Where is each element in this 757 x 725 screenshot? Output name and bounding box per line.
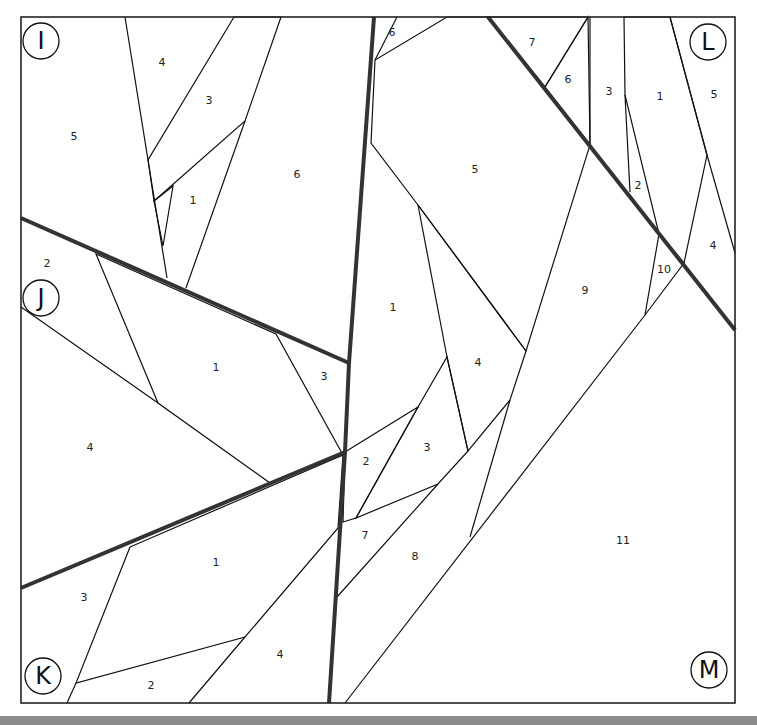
- label-l2: 2: [635, 179, 642, 192]
- section-letter-i: I: [23, 23, 59, 59]
- label-m5: 5: [472, 163, 479, 176]
- section-letter-k: K: [25, 658, 61, 694]
- label-k2: 2: [148, 679, 155, 692]
- label-l1: 1: [657, 90, 664, 103]
- svg-text:M: M: [699, 656, 720, 684]
- label-l5: 5: [711, 88, 718, 101]
- label-j3: 3: [321, 370, 328, 383]
- label-k4: 4: [277, 648, 284, 661]
- svg-text:I: I: [37, 27, 44, 55]
- label-i3: 3: [206, 94, 213, 107]
- label-k1: 1: [213, 556, 220, 569]
- label-i5: 5: [71, 130, 78, 143]
- label-l3: 3: [606, 85, 613, 98]
- label-l7: 7: [529, 36, 536, 49]
- label-i6: 6: [294, 168, 301, 181]
- label-i1: 1: [190, 194, 197, 207]
- label-k3: 3: [81, 591, 88, 604]
- label-m6: 6: [389, 26, 396, 39]
- bottom-bar: [0, 716, 757, 725]
- label-j2: 2: [44, 257, 51, 270]
- svg-text:J: J: [35, 284, 44, 312]
- label-j4: 4: [87, 441, 94, 454]
- label-m11: 11: [616, 534, 630, 547]
- label-m3: 3: [424, 441, 431, 454]
- label-j1: 1: [213, 361, 220, 374]
- svg-text:K: K: [35, 662, 52, 690]
- label-m1: 1: [390, 301, 397, 314]
- label-l4: 4: [710, 239, 717, 252]
- label-l10: 10: [657, 263, 671, 276]
- label-m8: 8: [412, 550, 419, 563]
- label-m7: 7: [362, 529, 369, 542]
- label-m4: 4: [475, 356, 482, 369]
- label-m9: 9: [582, 284, 589, 297]
- label-m2: 2: [363, 455, 370, 468]
- section-letter-l: L: [690, 24, 726, 60]
- label-i4: 4: [159, 56, 166, 69]
- paper-piecing-pattern: I J K L M 4 3 5 6 1 2 1 3 4 1 3 4 2 6 5 …: [0, 0, 757, 725]
- section-letter-j: J: [23, 280, 59, 316]
- svg-text:L: L: [701, 28, 715, 56]
- label-l6: 6: [565, 73, 572, 86]
- pattern-background: [21, 17, 735, 703]
- section-letter-m: M: [691, 652, 727, 688]
